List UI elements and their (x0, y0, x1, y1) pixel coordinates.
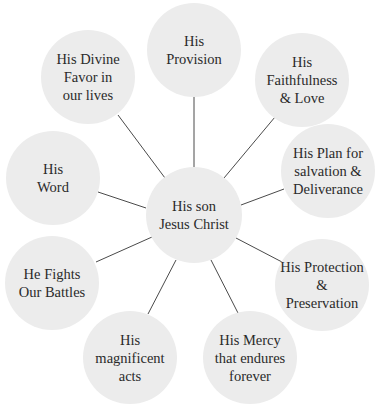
link-fights (96, 237, 152, 262)
node-word: His Word (6, 131, 100, 225)
node-faithfulness-label: His Faithfulness & Love (267, 53, 338, 107)
link-magnificent (148, 260, 176, 314)
link-mercy (211, 260, 238, 313)
node-mercy: His Mercy that endures forever (203, 311, 297, 404)
node-protection: His Protection & Preservation (275, 239, 369, 331)
node-fights: He Fights Our Battles (5, 236, 99, 330)
node-mercy-label: His Mercy that endures forever (215, 331, 285, 385)
node-provision-label: His Provision (166, 32, 222, 68)
node-faithfulness: His Faithfulness & Love (255, 33, 349, 127)
node-word-label: His Word (37, 160, 69, 196)
node-plan: His Plan for salvation & Deliverance (281, 124, 375, 218)
node-magnificent: His magnificent acts (83, 311, 177, 404)
node-favor: His Divine Favor in our lives (41, 30, 135, 124)
link-word (98, 192, 146, 208)
link-protection (236, 238, 282, 262)
link-favor (118, 115, 165, 178)
node-center: His son Jesus Christ (146, 167, 242, 263)
node-magnificent-label: His magnificent acts (95, 331, 164, 385)
link-plan (241, 189, 284, 205)
node-center-label: His son Jesus Christ (159, 197, 229, 233)
node-provision: His Provision (147, 3, 241, 97)
link-faithfulness (224, 117, 275, 178)
node-fights-label: He Fights Our Battles (19, 265, 85, 301)
node-plan-label: His Plan for salvation & Deliverance (293, 144, 363, 198)
node-protection-label: His Protection & Preservation (279, 258, 365, 312)
node-favor-label: His Divine Favor in our lives (56, 50, 119, 104)
